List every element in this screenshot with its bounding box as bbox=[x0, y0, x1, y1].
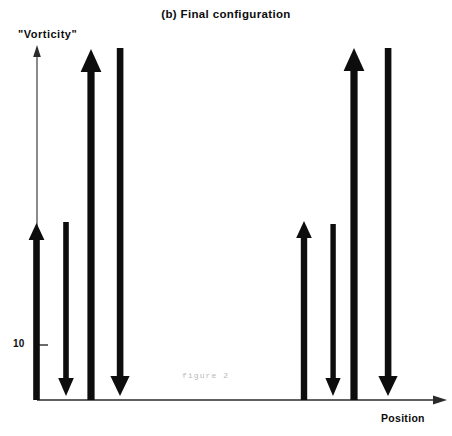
figure-container: (b) Final configuration "Vorticity" Posi… bbox=[0, 0, 452, 436]
y-axis-tick-label: 10 bbox=[13, 338, 25, 349]
x-axis-label: Position bbox=[381, 412, 425, 424]
y-axis-label: "Vorticity" bbox=[18, 28, 77, 40]
page-title: (b) Final configuration bbox=[0, 8, 452, 20]
figure-caption-watermark: figure 2 bbox=[182, 371, 229, 380]
